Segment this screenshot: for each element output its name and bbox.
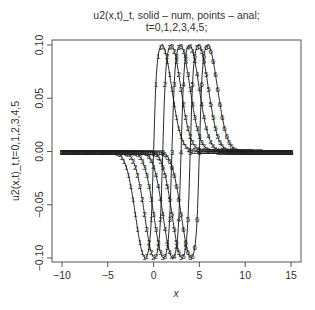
series-marker: 3 (193, 113, 198, 122)
series-marker: 6 (172, 171, 177, 180)
series-marker: 6 (215, 85, 220, 94)
series-marker: 5 (188, 148, 193, 157)
series-marker: 3 (154, 225, 159, 234)
series-marker: 5 (204, 70, 209, 79)
series-marker: 1 (126, 171, 131, 180)
series-marker: 6 (213, 70, 218, 79)
series-marker: 3 (170, 148, 175, 157)
series-marker: 5 (163, 171, 168, 180)
y-axis-label: u2(x,t)_t,t=0,1,2,3,4,5 (9, 101, 21, 201)
series-marker: 6 (195, 215, 200, 224)
series-marker: 2 (140, 195, 145, 204)
series-marker: 6 (174, 182, 179, 191)
series-marker: 4 (179, 148, 184, 157)
series-marker: 3 (174, 52, 179, 61)
y-tick-label: −0.10 (33, 245, 45, 272)
series-marker: 5 (167, 195, 172, 204)
series-marker: 6 (289, 148, 294, 157)
series-marker: 5 (190, 80, 195, 89)
series-marker: 1 (138, 238, 143, 247)
series-marker: 4 (195, 70, 200, 79)
series-marker: 4 (163, 225, 168, 234)
series-marker: 1 (167, 70, 172, 79)
series-marker: 6 (202, 52, 207, 61)
series-marker: 1 (135, 225, 140, 234)
series-marker: 6 (218, 100, 223, 109)
series-marker: 3 (145, 171, 150, 180)
series-marker: 5 (211, 113, 216, 122)
series-marker: 2 (165, 52, 170, 61)
series-marker: 1 (133, 210, 138, 219)
series-marker: 2 (142, 210, 147, 219)
series-marker: 2 (135, 171, 140, 180)
series-marker: 5 (174, 238, 179, 247)
series-marker: 3 (186, 70, 191, 79)
series-marker: 6 (183, 238, 188, 247)
series-marker: 2 (163, 80, 168, 89)
series-marker: 4 (158, 195, 163, 204)
series-marker: 6 (220, 113, 225, 122)
x-tick-label: 15 (285, 269, 297, 281)
series-marker: 4 (183, 52, 188, 61)
series-marker: 4 (156, 182, 161, 191)
y-tick-label: 0.10 (33, 35, 45, 56)
series-marker: 5 (186, 215, 191, 224)
series-marker: 3 (151, 210, 156, 219)
series-marker: 5 (170, 210, 175, 219)
series-marker: 6 (211, 57, 216, 66)
x-tick-label: 5 (196, 269, 202, 281)
x-tick-label: 0 (151, 269, 157, 281)
series-marker: 4 (161, 210, 166, 219)
series-marker: 5 (206, 85, 211, 94)
y-tick-label: −0.05 (33, 191, 45, 218)
series-marker: 1 (172, 100, 177, 109)
series-marker: 3 (147, 182, 152, 191)
series-marker: 3 (156, 238, 161, 247)
series-marker: 3 (190, 100, 195, 109)
series-marker: 2 (183, 113, 188, 122)
series-marker: 6 (197, 148, 202, 157)
series-marker: 5 (165, 182, 170, 191)
series-marker: 3 (149, 195, 154, 204)
series-marker: 4 (199, 100, 204, 109)
x-axis-label: x (172, 287, 179, 299)
x-tick-label: −5 (102, 269, 114, 281)
series-marker: 6 (181, 225, 186, 234)
series-marker: 1 (174, 113, 179, 122)
series-marker: 2 (181, 100, 186, 109)
series-marker: 2 (138, 182, 143, 191)
series-marker: 4 (202, 113, 207, 122)
series-marker: 4 (154, 171, 159, 180)
series-marker: 6 (193, 243, 198, 252)
series-marker: 4 (165, 238, 170, 247)
x-tick-label: 10 (239, 269, 251, 281)
series-marker: 6 (177, 195, 182, 204)
series-marker: 5 (172, 225, 177, 234)
series-marker: 6 (199, 80, 204, 89)
series-marker: 2 (147, 238, 152, 247)
series-marker: 3 (172, 80, 177, 89)
plot-area: −10−50510150.100.050.00−0.05−0.10 111111… (0, 0, 315, 310)
series-marker: 1 (154, 80, 159, 89)
series-marker: 6 (190, 252, 195, 261)
x-tick-label: −10 (53, 269, 71, 281)
series-marker: 4 (181, 80, 186, 89)
series-marker: 1 (156, 52, 161, 61)
series-marker: 2 (177, 70, 182, 79)
chart: u2(x,t)_t, solid – num, points – anal; t… (0, 0, 315, 310)
series-marker: 6 (179, 210, 184, 219)
series-marker: 2 (145, 225, 150, 234)
series-marker: 5 (209, 100, 214, 109)
curves: 1111111111111111111111111111111111111111… (60, 42, 294, 263)
series-marker: 5 (193, 52, 198, 61)
series-marker: 1 (131, 195, 136, 204)
y-tick-label: 0.00 (33, 141, 45, 162)
series-marker: 6 (209, 47, 214, 56)
y-tick-label: 0.05 (33, 88, 45, 109)
series-marker: 1 (128, 182, 133, 191)
